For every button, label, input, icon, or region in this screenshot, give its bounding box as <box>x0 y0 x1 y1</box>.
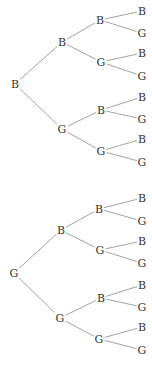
branch-line <box>99 327 142 339</box>
level1-node: G <box>57 124 68 135</box>
level2-node: B <box>96 293 106 304</box>
leaf-node: G <box>137 114 148 125</box>
leaf-node: G <box>137 345 148 356</box>
level1-node: B <box>57 37 67 48</box>
leaf-node: B <box>137 322 147 333</box>
leaf-node: B <box>137 280 147 291</box>
leaf-node: B <box>137 193 147 204</box>
leaf-node: B <box>137 92 147 103</box>
branch-line <box>100 11 142 20</box>
leaf-node: G <box>137 28 148 39</box>
leaf-node: G <box>137 216 148 227</box>
root-node: B <box>10 79 20 90</box>
branch-line <box>101 139 142 151</box>
branch-line <box>101 53 142 62</box>
leaf-node: G <box>137 71 148 82</box>
root-node: G <box>9 268 20 279</box>
branch-line <box>99 339 142 350</box>
leaf-node: B <box>137 48 147 59</box>
level2-node: B <box>96 105 106 116</box>
branch-line <box>101 285 142 298</box>
level1-node: G <box>55 313 66 324</box>
level1-node: B <box>56 225 66 236</box>
leaf-node: G <box>137 302 148 313</box>
branch-line <box>15 84 62 129</box>
level2-node: B <box>94 204 104 215</box>
branch-line <box>60 298 101 318</box>
branch-line <box>101 97 142 110</box>
leaf-node: B <box>137 134 147 145</box>
branch-line <box>99 209 142 221</box>
tree-edges <box>0 0 152 366</box>
level2-node: G <box>95 245 106 256</box>
leaf-node: B <box>137 6 147 17</box>
level2-node: B <box>95 15 105 26</box>
branch-line <box>100 241 142 250</box>
leaf-node: G <box>137 157 148 168</box>
leaf-node: G <box>137 258 148 269</box>
branch-line <box>99 198 142 209</box>
level2-node: G <box>94 334 105 345</box>
level2-node: G <box>96 57 107 68</box>
branch-line <box>14 230 61 273</box>
branch-line <box>15 42 62 84</box>
level2-node: G <box>96 146 107 157</box>
branch-line <box>14 273 60 318</box>
leaf-node: B <box>137 236 147 247</box>
